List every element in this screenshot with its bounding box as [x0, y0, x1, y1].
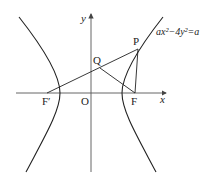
hyperbola-left-branch	[19, 17, 60, 172]
point-P-label: P	[133, 35, 139, 47]
point-F-label: F	[131, 95, 137, 107]
x-axis-label: x	[159, 93, 165, 105]
segment-Q-F	[100, 68, 135, 93]
y-axis-label: y	[80, 12, 86, 24]
point-Q-label: Q	[93, 54, 101, 66]
point-Fprime-label: F′	[42, 95, 51, 107]
equation-label: ax²−4y²=a	[156, 26, 199, 37]
hyperbola-right-branch	[122, 17, 163, 172]
origin-label: O	[81, 95, 89, 107]
hyperbola-diagram: y x O P Q F F′ ax²−4y²=a	[0, 0, 218, 183]
